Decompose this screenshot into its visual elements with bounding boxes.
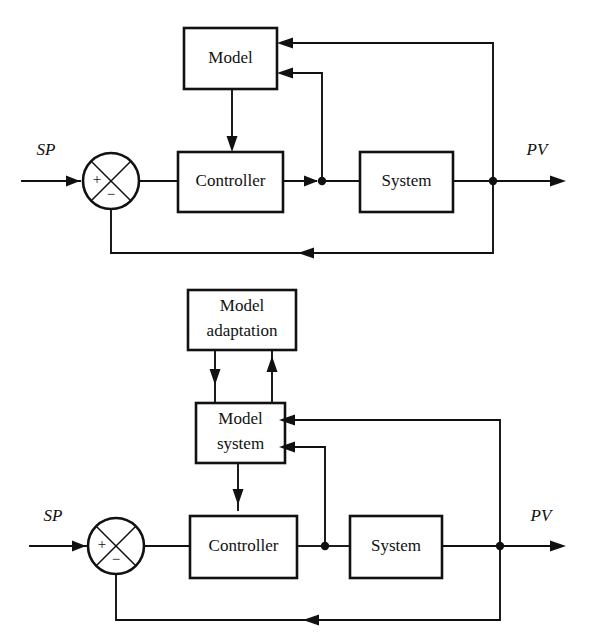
top-controller-output-arrowhead bbox=[304, 176, 318, 187]
top-pv-label: PV bbox=[526, 140, 550, 159]
top-sp-label: SP bbox=[37, 140, 56, 159]
top-diagram: SP + − Model Controller bbox=[22, 28, 566, 259]
bottom-minus-sign: − bbox=[112, 551, 120, 567]
bottom-feedback-arrowhead bbox=[303, 615, 319, 626]
bottom-sp-input-wire bbox=[30, 541, 86, 552]
bottom-model-to-controller-wire bbox=[233, 463, 244, 510]
top-sp-input-wire bbox=[22, 176, 80, 187]
top-pv-arrowhead bbox=[550, 176, 566, 187]
top-model-block: Model bbox=[184, 28, 277, 89]
bottom-pv-label: PV bbox=[530, 506, 554, 525]
top-pv-output-wire bbox=[493, 176, 566, 187]
top-model-to-controller-arrowhead bbox=[227, 136, 238, 152]
top-controller-label: Controller bbox=[196, 171, 266, 190]
bottom-adaptation-to-model-arrowhead bbox=[210, 369, 221, 385]
bottom-diagram: Model adaptation Model system bbox=[30, 290, 566, 626]
top-sp-arrowhead bbox=[66, 176, 80, 187]
bottom-sp-label: SP bbox=[44, 506, 63, 525]
top-summing-junction: + − bbox=[83, 153, 139, 209]
bottom-model-system-block: Model system bbox=[196, 403, 285, 463]
bottom-model-system-label-line1: Model bbox=[218, 409, 263, 428]
bottom-pv-output-wire bbox=[500, 541, 566, 552]
bottom-model-adaptation-label-line1: Model bbox=[220, 296, 265, 315]
top-mv-branch-arrowhead bbox=[277, 68, 293, 79]
top-system-block: System bbox=[360, 152, 453, 212]
bottom-model-system-label-line2: system bbox=[217, 434, 264, 453]
bottom-summing-junction: + − bbox=[88, 518, 144, 574]
bottom-controller-block: Controller bbox=[190, 516, 297, 578]
top-model-to-controller-wire bbox=[227, 89, 238, 152]
diagram-page: SP + − Model Controller bbox=[0, 0, 592, 633]
bottom-model-adaptation-label-line2: adaptation bbox=[207, 321, 278, 340]
bottom-model-to-adaptation-arrowhead bbox=[267, 356, 278, 372]
top-model-label: Model bbox=[208, 48, 253, 67]
bottom-adaptation-to-model-wire bbox=[210, 350, 221, 403]
top-plus-sign: + bbox=[93, 171, 101, 187]
top-system-label: System bbox=[381, 171, 431, 190]
bottom-model-to-adaptation-wire bbox=[267, 350, 278, 403]
top-controller-block: Controller bbox=[178, 152, 283, 212]
block-diagram-canvas: SP + − Model Controller bbox=[0, 0, 592, 633]
bottom-system-label: System bbox=[371, 536, 421, 555]
bottom-model-to-controller-arrowhead bbox=[233, 489, 244, 505]
bottom-model-adaptation-block: Model adaptation bbox=[188, 290, 296, 350]
bottom-plus-sign: + bbox=[98, 536, 106, 552]
top-pv-to-model-arrowhead bbox=[277, 38, 293, 49]
bottom-sp-arrowhead bbox=[72, 541, 86, 552]
top-feedback-arrowhead bbox=[298, 248, 314, 259]
bottom-controller-label: Controller bbox=[209, 536, 279, 555]
top-controller-output-wire bbox=[283, 176, 318, 187]
bottom-system-block: System bbox=[350, 516, 442, 578]
top-minus-sign: − bbox=[107, 186, 115, 202]
bottom-pv-arrowhead bbox=[550, 541, 566, 552]
